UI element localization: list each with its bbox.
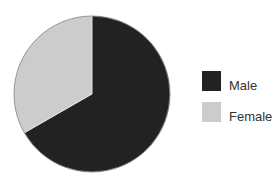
legend-item-female: Female [202, 102, 272, 122]
pie-slices [14, 16, 170, 172]
legend-label-female: Female [229, 107, 272, 127]
legend-label-male: Male [229, 76, 257, 96]
legend-item-male: Male [202, 71, 272, 91]
legend-swatch-female [202, 102, 221, 122]
legend-swatch-male [202, 71, 221, 91]
legend: Male Female [202, 71, 272, 133]
